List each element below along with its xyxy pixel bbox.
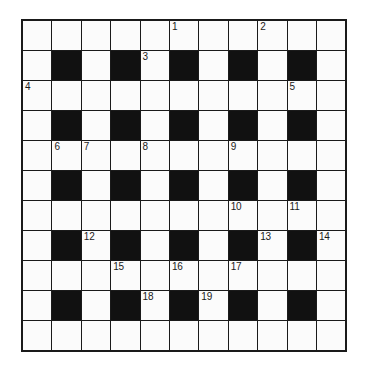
crossword-cell[interactable]	[316, 201, 346, 231]
crossword-cell[interactable]	[169, 321, 198, 352]
crossword-cell[interactable]	[81, 291, 110, 321]
crossword-cell[interactable]	[140, 81, 169, 111]
crossword-cell[interactable]	[258, 321, 287, 352]
crossword-cell[interactable]	[22, 111, 52, 141]
crossword-cell[interactable]	[258, 51, 287, 81]
crossword-cell[interactable]: 11	[287, 201, 316, 231]
crossword-cell[interactable]	[169, 201, 198, 231]
crossword-cell[interactable]	[199, 231, 228, 261]
crossword-cell[interactable]	[258, 111, 287, 141]
crossword-cell[interactable]	[52, 321, 81, 352]
crossword-cell[interactable]	[22, 321, 52, 352]
crossword-cell[interactable]	[81, 201, 110, 231]
crossword-cell[interactable]	[111, 321, 140, 352]
crossword-cell[interactable]	[52, 261, 81, 291]
crossword-cell[interactable]	[258, 81, 287, 111]
crossword-cell[interactable]: 13	[258, 231, 287, 261]
crossword-cell[interactable]	[199, 51, 228, 81]
crossword-cell[interactable]	[81, 51, 110, 81]
crossword-cell[interactable]: 3	[140, 51, 169, 81]
crossword-cell[interactable]: 6	[52, 141, 81, 171]
crossword-cell[interactable]	[22, 171, 52, 201]
crossword-cell[interactable]	[287, 261, 316, 291]
crossword-cell[interactable]	[22, 141, 52, 171]
crossword-cell[interactable]: 16	[169, 261, 198, 291]
crossword-cell[interactable]	[22, 51, 52, 81]
crossword-cell[interactable]	[316, 291, 346, 321]
crossword-cell[interactable]	[111, 20, 140, 51]
crossword-cell[interactable]	[140, 261, 169, 291]
crossword-cell[interactable]	[81, 20, 110, 51]
crossword-cell[interactable]	[140, 201, 169, 231]
crossword-cell[interactable]	[140, 231, 169, 261]
crossword-cell[interactable]	[228, 321, 257, 352]
crossword-cell[interactable]	[258, 141, 287, 171]
crossword-cell[interactable]	[140, 171, 169, 201]
crossword-cell[interactable]	[258, 291, 287, 321]
crossword-cell[interactable]	[169, 141, 198, 171]
crossword-cell[interactable]: 12	[81, 231, 110, 261]
crossword-cell[interactable]	[140, 20, 169, 51]
crossword-cell[interactable]	[199, 201, 228, 231]
crossword-cell[interactable]	[316, 171, 346, 201]
crossword-cell[interactable]	[316, 261, 346, 291]
crossword-cell[interactable]: 4	[22, 81, 52, 111]
crossword-cell[interactable]	[22, 291, 52, 321]
crossword-cell[interactable]	[22, 231, 52, 261]
crossword-grid[interactable]: 12345678910111213141516171819	[21, 19, 347, 352]
crossword-cell[interactable]	[140, 321, 169, 352]
crossword-cell[interactable]	[258, 201, 287, 231]
crossword-cell[interactable]	[258, 261, 287, 291]
crossword-cell[interactable]	[287, 321, 316, 352]
crossword-cell[interactable]	[81, 261, 110, 291]
crossword-block-cell	[228, 231, 257, 261]
crossword-cell[interactable]	[111, 141, 140, 171]
crossword-cell[interactable]: 1	[169, 20, 198, 51]
crossword-cell[interactable]: 5	[287, 81, 316, 111]
crossword-cell[interactable]	[52, 81, 81, 111]
crossword-cell[interactable]	[111, 201, 140, 231]
crossword-block-cell	[169, 111, 198, 141]
crossword-cell[interactable]	[111, 81, 140, 111]
crossword-cell[interactable]	[52, 201, 81, 231]
crossword-cell[interactable]	[228, 20, 257, 51]
crossword-cell[interactable]	[316, 111, 346, 141]
crossword-cell[interactable]	[199, 81, 228, 111]
crossword-cell[interactable]	[81, 171, 110, 201]
crossword-cell[interactable]: 17	[228, 261, 257, 291]
crossword-cell[interactable]	[22, 201, 52, 231]
crossword-cell[interactable]: 9	[228, 141, 257, 171]
crossword-cell[interactable]	[81, 111, 110, 141]
crossword-cell[interactable]	[199, 171, 228, 201]
crossword-cell[interactable]	[199, 261, 228, 291]
crossword-cell[interactable]	[316, 141, 346, 171]
crossword-cell[interactable]: 19	[199, 291, 228, 321]
crossword-cell[interactable]: 2	[258, 20, 287, 51]
crossword-cell[interactable]	[316, 81, 346, 111]
crossword-cell[interactable]: 18	[140, 291, 169, 321]
crossword-cell[interactable]	[22, 261, 52, 291]
crossword-cell[interactable]	[316, 321, 346, 352]
crossword-cell[interactable]: 10	[228, 201, 257, 231]
crossword-cell[interactable]	[199, 321, 228, 352]
crossword-cell[interactable]	[287, 20, 316, 51]
crossword-cell[interactable]	[316, 20, 346, 51]
crossword-cell[interactable]	[81, 321, 110, 352]
crossword-block-cell	[287, 111, 316, 141]
crossword-cell[interactable]	[140, 111, 169, 141]
crossword-cell[interactable]: 14	[316, 231, 346, 261]
crossword-cell[interactable]	[169, 81, 198, 111]
crossword-cell[interactable]	[22, 20, 52, 51]
crossword-cell[interactable]: 7	[81, 141, 110, 171]
crossword-cell[interactable]	[316, 51, 346, 81]
crossword-cell[interactable]	[199, 111, 228, 141]
crossword-cell[interactable]: 15	[111, 261, 140, 291]
crossword-cell[interactable]: 8	[140, 141, 169, 171]
crossword-cell[interactable]	[258, 171, 287, 201]
crossword-cell[interactable]	[81, 81, 110, 111]
crossword-cell[interactable]	[52, 20, 81, 51]
crossword-cell[interactable]	[287, 141, 316, 171]
crossword-cell[interactable]	[228, 81, 257, 111]
crossword-cell[interactable]	[199, 20, 228, 51]
crossword-cell[interactable]	[199, 141, 228, 171]
